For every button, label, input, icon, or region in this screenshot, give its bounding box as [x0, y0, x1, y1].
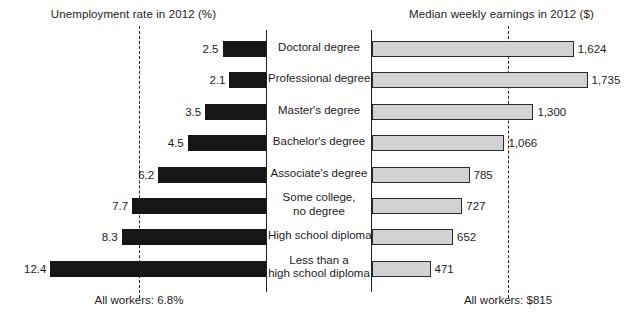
category-label-line: Professional degree [268, 72, 370, 86]
category-label: High school diploma [268, 229, 370, 243]
unemployment-bar [158, 167, 266, 183]
unemployment-bar [122, 229, 266, 245]
earnings-bar [372, 72, 588, 88]
category-label-line: High school diploma [268, 229, 370, 243]
bar-row: 3.5Master's degree1,300 [0, 104, 631, 120]
bar-row: 4.5Bachelor's degree1,066 [0, 135, 631, 151]
education-pays-chart: Unemployment rate in 2012 (%) Median wee… [0, 0, 631, 319]
unemployment-bar [188, 135, 266, 151]
right-panel-axis-line [371, 30, 372, 292]
bar-row: 2.5Doctoral degree1,624 [0, 41, 631, 57]
unemployment-value-label: 8.3 [0, 228, 118, 246]
unemployment-bar [132, 198, 266, 214]
category-label-line: Some college, [268, 191, 370, 205]
left-panel-average-reference-line [139, 26, 140, 298]
bar-row: 8.3High school diploma652 [0, 229, 631, 245]
right-panel-title: Median weekly earnings in 2012 ($) [372, 8, 631, 20]
category-label-line: Associate's degree [268, 167, 370, 181]
earnings-bar [372, 135, 504, 151]
right-panel-average-reference-line [508, 26, 509, 298]
unemployment-value-label: 2.5 [0, 40, 219, 58]
category-label-line: Doctoral degree [268, 41, 370, 55]
unemployment-bar [229, 72, 266, 88]
unemployment-value-label: 3.5 [0, 103, 201, 121]
unemployment-value-label: 7.7 [0, 197, 128, 215]
bar-row: 7.7Some college,no degree727 [0, 198, 631, 214]
category-label: Some college,no degree [268, 191, 370, 218]
earnings-value-label: 471 [435, 260, 454, 278]
category-label: Professional degree [268, 72, 370, 86]
category-label-line: high school diploma [268, 267, 370, 281]
unemployment-value-label: 6.2 [0, 166, 154, 184]
earnings-value-label: 785 [474, 166, 493, 184]
category-label-line: Less than a [268, 254, 370, 268]
earnings-bar [372, 261, 431, 277]
earnings-bar [372, 104, 533, 120]
earnings-value-label: 1,300 [537, 103, 566, 121]
earnings-value-label: 1,066 [508, 134, 537, 152]
unemployment-value-label: 2.1 [0, 71, 225, 89]
earnings-bar [372, 229, 453, 245]
bar-row: 6.2Associate's degree785 [0, 167, 631, 183]
earnings-value-label: 652 [457, 228, 476, 246]
category-label-line: Master's degree [268, 104, 370, 118]
unemployment-bar [223, 41, 266, 57]
category-label: Doctoral degree [268, 41, 370, 55]
right-panel-footer-note: All workers: $815 [428, 294, 588, 306]
unemployment-value-label: 12.4 [0, 260, 46, 278]
category-label: Associate's degree [268, 167, 370, 181]
earnings-value-label: 1,624 [578, 40, 607, 58]
category-label: Less than ahigh school diploma [268, 254, 370, 281]
bar-row: 12.4Less than ahigh school diploma471 [0, 261, 631, 277]
earnings-bar [372, 41, 574, 57]
bar-row: 2.1Professional degree1,735 [0, 72, 631, 88]
left-panel-title: Unemployment rate in 2012 (%) [0, 8, 267, 20]
unemployment-bar [205, 104, 266, 120]
earnings-value-label: 1,735 [592, 71, 621, 89]
category-label-line: no degree [268, 205, 370, 219]
unemployment-bar [50, 261, 266, 277]
earnings-value-label: 727 [466, 197, 485, 215]
category-label: Bachelor's degree [268, 135, 370, 149]
earnings-bar [372, 198, 462, 214]
earnings-bar [372, 167, 470, 183]
left-panel-axis-line [266, 30, 267, 292]
unemployment-value-label: 4.5 [0, 134, 184, 152]
category-label: Master's degree [268, 104, 370, 118]
category-label-line: Bachelor's degree [268, 135, 370, 149]
left-panel-footer-note: All workers: 6.8% [59, 294, 219, 306]
